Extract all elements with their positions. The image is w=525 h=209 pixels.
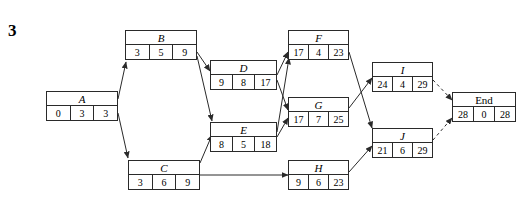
- node-end[interactable]: End 28 0 28: [452, 92, 516, 122]
- node-g-cell-dur: 7: [309, 112, 329, 126]
- node-c-cells: 3 6 9: [129, 175, 199, 189]
- edge-h-j: [349, 146, 372, 172]
- node-end-cell-dur: 0: [474, 107, 495, 121]
- node-e[interactable]: E 8 5 18: [210, 122, 277, 152]
- node-b-cell-ef: 9: [173, 45, 196, 59]
- node-end-cell-es: 28: [453, 107, 474, 121]
- edge-b-d: [197, 52, 210, 71]
- node-d-cell-ef: 17: [255, 75, 276, 89]
- node-a-cells: 0 3 3: [47, 106, 117, 120]
- node-i-label: I: [373, 63, 432, 77]
- node-end-label: End: [453, 93, 515, 107]
- node-j-cells: 21 6 29: [373, 143, 432, 157]
- node-f-cell-ef: 23: [329, 45, 348, 59]
- node-i-cells: 24 4 29: [373, 77, 432, 91]
- node-g-cell-ef: 25: [329, 112, 348, 126]
- node-i-cell-es: 24: [373, 77, 393, 91]
- node-f-label: F: [289, 31, 348, 45]
- node-j-cell-dur: 6: [393, 143, 413, 157]
- edge-g-i: [349, 78, 372, 108]
- node-a-cell-dur: 3: [71, 106, 95, 120]
- node-h-label: H: [289, 161, 348, 175]
- node-g-label: G: [289, 98, 348, 112]
- node-d-cells: 9 8 17: [211, 75, 276, 89]
- node-c[interactable]: C 3 6 9: [128, 160, 200, 190]
- node-f-cells: 17 4 23: [289, 45, 348, 59]
- edge-i-end: [433, 80, 452, 100]
- node-d-cell-dur: 8: [233, 75, 255, 89]
- node-d-cell-es: 9: [211, 75, 233, 89]
- node-i-cell-ef: 29: [413, 77, 432, 91]
- node-a-label: A: [47, 92, 117, 106]
- node-b-cell-es: 3: [126, 45, 150, 59]
- node-f-cell-dur: 4: [309, 45, 329, 59]
- node-e-cells: 8 5 18: [211, 137, 276, 151]
- node-i-cell-dur: 4: [393, 77, 413, 91]
- node-b-cells: 3 5 9: [126, 45, 196, 59]
- edge-f-j: [349, 52, 372, 128]
- node-b-cell-dur: 5: [150, 45, 174, 59]
- node-end-cells: 28 0 28: [453, 107, 515, 121]
- node-h[interactable]: H 9 6 23: [288, 160, 349, 190]
- node-j-label: J: [373, 129, 432, 143]
- node-d-label: D: [211, 61, 276, 75]
- node-j[interactable]: J 21 6 29: [372, 128, 433, 158]
- node-a[interactable]: A 0 3 3: [46, 91, 118, 121]
- network-diagram-canvas: 3: [0, 0, 525, 209]
- node-g[interactable]: G 17 7 25: [288, 97, 349, 127]
- edge-a-c: [118, 113, 128, 158]
- node-h-cell-ef: 23: [329, 175, 348, 189]
- node-f-cell-es: 17: [289, 45, 309, 59]
- node-c-cell-es: 3: [129, 175, 153, 189]
- node-a-cell-es: 0: [47, 106, 71, 120]
- node-c-cell-ef: 9: [176, 175, 199, 189]
- node-c-cell-dur: 6: [153, 175, 177, 189]
- node-g-cells: 17 7 25: [289, 112, 348, 126]
- node-e-cell-dur: 5: [233, 137, 255, 151]
- node-i[interactable]: I 24 4 29: [372, 62, 433, 92]
- node-j-cell-es: 21: [373, 143, 393, 157]
- node-h-cells: 9 6 23: [289, 175, 348, 189]
- node-e-cell-es: 8: [211, 137, 233, 151]
- node-d[interactable]: D 9 8 17: [210, 60, 277, 90]
- node-j-cell-ef: 29: [413, 143, 432, 157]
- edge-j-end: [433, 118, 452, 140]
- node-e-cell-ef: 18: [255, 137, 276, 151]
- node-e-label: E: [211, 123, 276, 137]
- node-a-cell-ef: 3: [94, 106, 117, 120]
- node-f[interactable]: F 17 4 23: [288, 30, 349, 60]
- node-end-cell-ef: 28: [495, 107, 515, 121]
- node-g-cell-es: 17: [289, 112, 309, 126]
- node-h-cell-es: 9: [289, 175, 309, 189]
- node-c-label: C: [129, 161, 199, 175]
- node-b[interactable]: B 3 5 9: [125, 30, 197, 60]
- node-h-cell-dur: 6: [309, 175, 329, 189]
- node-b-label: B: [126, 31, 196, 45]
- edge-a-b: [118, 62, 126, 99]
